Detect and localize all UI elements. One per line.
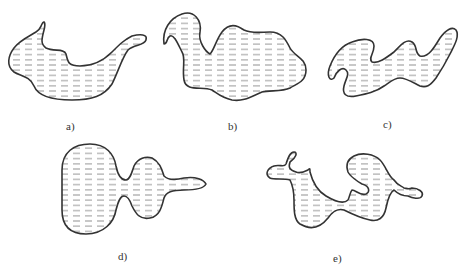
- panel-d: d): [62, 144, 206, 263]
- shape-d: [62, 144, 206, 234]
- panel-e: e): [267, 152, 422, 265]
- figure-canvas: a) b) c) d) e): [0, 0, 468, 274]
- label-c: c): [383, 118, 392, 131]
- panel-b: b): [164, 13, 306, 133]
- panel-a: a): [9, 22, 147, 133]
- label-a: a): [66, 120, 75, 133]
- shape-e: [267, 152, 422, 227]
- label-b: b): [228, 120, 238, 133]
- shape-b: [164, 13, 306, 100]
- panel-c: c): [328, 28, 457, 131]
- shape-c: [328, 28, 457, 96]
- label-d: d): [118, 250, 128, 263]
- shape-a: [9, 22, 147, 100]
- label-e: e): [333, 252, 342, 265]
